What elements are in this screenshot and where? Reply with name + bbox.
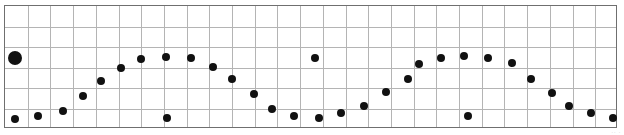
data-point bbox=[34, 112, 42, 120]
data-point bbox=[11, 115, 19, 123]
data-point bbox=[137, 55, 145, 63]
data-point bbox=[117, 64, 125, 72]
data-point bbox=[484, 54, 492, 62]
data-point bbox=[79, 92, 87, 100]
data-point bbox=[59, 107, 67, 115]
data-point bbox=[360, 102, 368, 110]
data-point bbox=[460, 52, 468, 60]
data-point bbox=[8, 51, 22, 65]
data-point bbox=[437, 54, 445, 62]
scatter-plot-area bbox=[4, 5, 617, 128]
data-point bbox=[404, 75, 412, 83]
data-point bbox=[587, 109, 595, 117]
scan-artifact-text: ·· · bbox=[611, 129, 621, 135]
data-point bbox=[268, 105, 276, 113]
data-point bbox=[464, 112, 472, 120]
data-point bbox=[209, 63, 217, 71]
data-point bbox=[97, 77, 105, 85]
data-point bbox=[162, 53, 170, 61]
data-point bbox=[527, 75, 535, 83]
data-point bbox=[508, 59, 516, 67]
data-point bbox=[609, 114, 617, 122]
data-point bbox=[311, 54, 319, 62]
data-point bbox=[565, 102, 573, 110]
scanned-chart-page: ·· · bbox=[0, 0, 624, 135]
data-point bbox=[337, 109, 345, 117]
data-point bbox=[382, 88, 390, 96]
data-point bbox=[415, 60, 423, 68]
data-point bbox=[290, 112, 298, 120]
data-point bbox=[250, 90, 258, 98]
data-point bbox=[187, 54, 195, 62]
data-point bbox=[228, 75, 236, 83]
data-point bbox=[315, 114, 323, 122]
data-point-layer bbox=[5, 6, 616, 127]
data-point bbox=[548, 89, 556, 97]
data-point bbox=[163, 114, 171, 122]
